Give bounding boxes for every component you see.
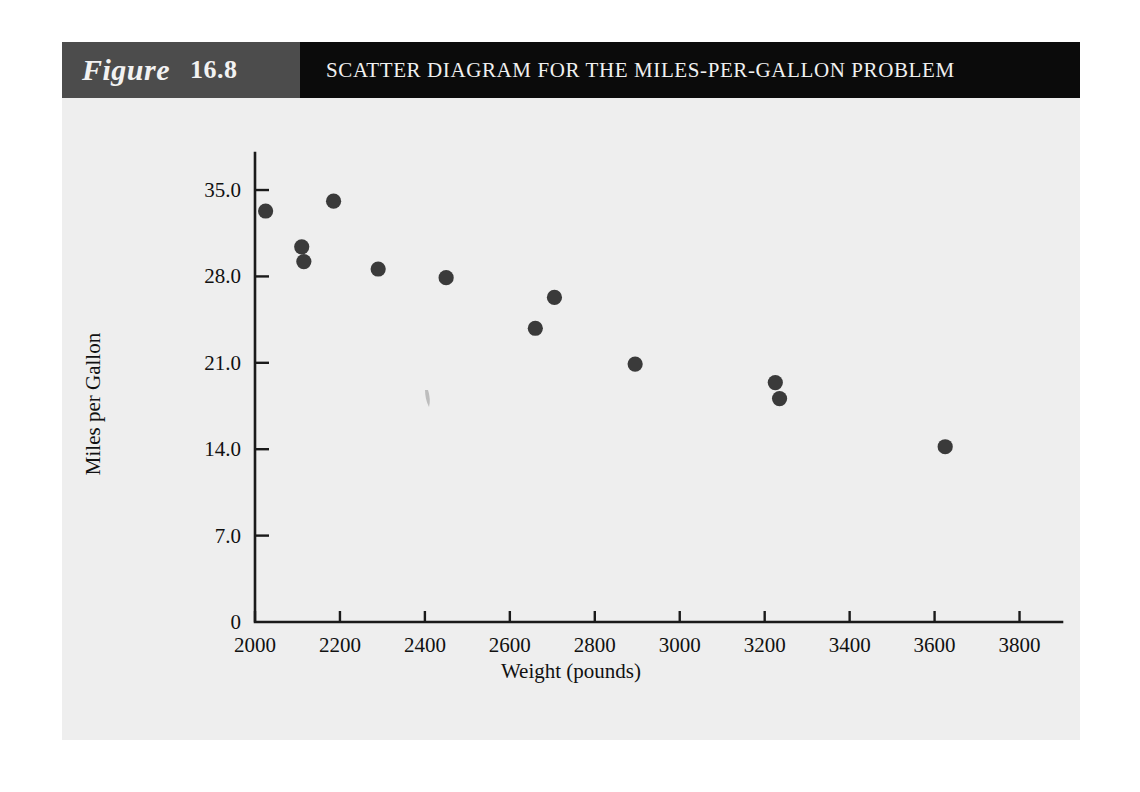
- figure-number: 16.8: [190, 57, 238, 83]
- data-point: [326, 194, 341, 209]
- y-tick-label: 35.0: [204, 178, 241, 202]
- data-point: [371, 261, 386, 276]
- data-point: [938, 439, 953, 454]
- y-tick-label: 21.0: [204, 351, 241, 375]
- data-point: [547, 290, 562, 305]
- y-tick-label: 28.0: [204, 264, 241, 288]
- x-tick-label: 3200: [744, 633, 786, 657]
- x-tick-label: 3000: [659, 633, 701, 657]
- y-tick-label: 14.0: [204, 437, 241, 461]
- x-tick-label: 3400: [829, 633, 871, 657]
- data-points: [258, 194, 953, 455]
- axis-frame: [255, 153, 1062, 622]
- paper-smudge-artifact: [425, 390, 430, 407]
- data-point: [528, 321, 543, 336]
- figure-label: Figure: [82, 55, 170, 85]
- x-tick-label: 2800: [574, 633, 616, 657]
- figure-number-block: Figure 16.8: [62, 42, 300, 98]
- plot-panel: 2000220024002600280030003200340036003800…: [62, 98, 1080, 740]
- x-tick-label: 2200: [319, 633, 361, 657]
- data-point: [294, 239, 309, 254]
- data-point: [772, 391, 787, 406]
- x-tick-label: 3600: [914, 633, 956, 657]
- scatter-chart: 2000220024002600280030003200340036003800…: [62, 98, 1080, 740]
- x-tick-label: 2000: [234, 633, 276, 657]
- figure-title-block: SCATTER DIAGRAM FOR THE MILES-PER-GALLON…: [300, 42, 1080, 98]
- y-tick-label: 0: [231, 610, 242, 634]
- x-tick-label: 3800: [999, 633, 1041, 657]
- figure-container: Figure 16.8 SCATTER DIAGRAM FOR THE MILE…: [0, 0, 1140, 792]
- data-point: [628, 356, 643, 371]
- x-tick-label: 2600: [489, 633, 531, 657]
- data-point: [768, 375, 783, 390]
- x-axis-title: Weight (pounds): [501, 659, 641, 683]
- chart-axes: [255, 153, 1062, 622]
- figure-header-band: Figure 16.8 SCATTER DIAGRAM FOR THE MILE…: [62, 42, 1080, 98]
- y-axis-title: Miles per Gallon: [81, 332, 105, 475]
- x-axis-ticks: 2000220024002600280030003200340036003800: [234, 611, 1041, 657]
- y-tick-label: 7.0: [215, 524, 241, 548]
- figure-title: SCATTER DIAGRAM FOR THE MILES-PER-GALLON…: [326, 58, 955, 83]
- x-tick-label: 2400: [404, 633, 446, 657]
- data-point: [439, 270, 454, 285]
- y-axis-ticks: 07.014.021.028.035.0: [204, 178, 269, 634]
- data-point: [296, 254, 311, 269]
- data-point: [258, 203, 273, 218]
